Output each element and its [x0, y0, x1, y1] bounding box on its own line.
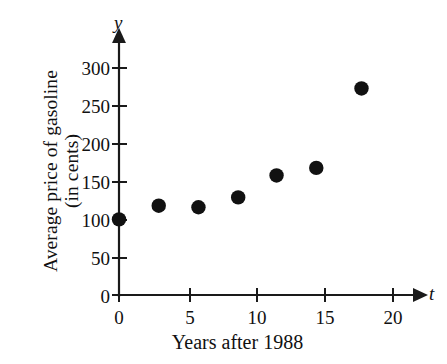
data-point-group — [112, 81, 369, 226]
data-point — [309, 161, 323, 175]
data-point — [112, 212, 126, 226]
data-point — [269, 168, 283, 182]
data-point — [354, 81, 368, 95]
data-point — [231, 190, 245, 204]
plot-canvas — [0, 0, 447, 364]
data-point — [191, 200, 205, 214]
scatter-plot-figure: Average price of gasoline (in cents) 300… — [0, 0, 447, 364]
data-point — [152, 199, 166, 213]
